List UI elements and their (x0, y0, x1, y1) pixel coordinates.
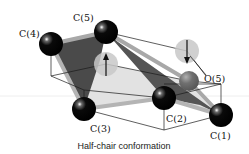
atom-c5 (94, 20, 118, 44)
atom-c3 (72, 97, 96, 121)
label-c2: C(2) (166, 113, 187, 124)
half-chair-diagram: C(4) C(5) C(3) C(2) C(1) O(5) Half-chair… (0, 0, 249, 154)
label-o5: O(5) (204, 73, 225, 84)
label-c1: C(1) (210, 130, 231, 141)
atom-c2 (152, 86, 176, 110)
atom-o5 (179, 71, 199, 91)
diagram-caption: Half-chair conformation (77, 141, 170, 151)
label-c5: C(5) (73, 12, 94, 23)
label-c3: C(3) (90, 123, 111, 134)
displacement-marker-up (94, 52, 118, 76)
label-c4: C(4) (19, 28, 40, 39)
displacement-marker-down (175, 39, 199, 64)
atom-c4 (39, 32, 63, 56)
atom-c1 (209, 103, 233, 127)
